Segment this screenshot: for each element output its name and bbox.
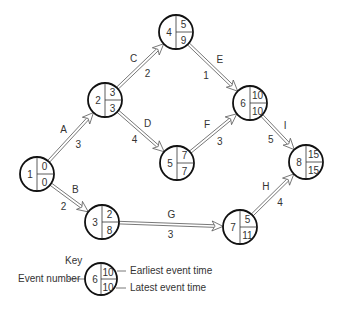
activity-name-label: A [60,124,67,135]
event-node-1: 100 [20,157,54,191]
event-node-8: 81515 [289,145,323,179]
earliest-event-time: 5 [245,214,251,225]
activity-name-label: F [204,119,210,130]
latest-event-time: 9 [181,35,187,46]
activity-name-label: G [167,209,175,220]
activity-duration-label: 5 [268,134,274,145]
event-number: 8 [296,157,302,168]
activity-duration-label: 2 [61,201,67,212]
latest-event-time: 10 [252,106,264,117]
activity-duration-label: 4 [277,197,283,208]
event-node-4: 459 [159,15,193,49]
activity-I: I5 [261,114,295,149]
latest-event-time: 11 [242,230,253,241]
latest-event-time: 3 [110,103,116,114]
activity-A: A3 [48,113,94,163]
activity-duration-label: 3 [76,139,82,150]
earliest-event-time: 10 [252,90,264,101]
event-number: 1 [27,169,33,180]
activity-H: H4 [251,174,294,216]
key-title: Key [65,255,82,266]
event-number: 7 [230,222,236,233]
event-number: 2 [95,95,101,106]
event-node-5: 577 [160,146,194,180]
activity-name-label: D [144,118,151,129]
activity-C: C2 [116,44,163,89]
activity-name-label: H [262,181,269,192]
activity-D: D4 [117,110,164,152]
event-node-7: 7511 [223,210,257,244]
activity-duration-label: 1 [203,70,209,81]
key-sample-latest: 10 [102,282,114,293]
key-earliest-label: Earliest event time [130,265,213,276]
earliest-event-time: 7 [182,150,188,161]
event-number: 6 [240,98,246,109]
event-number: 3 [92,217,98,228]
network-diagram: A3B2C2D4E1F3G3H4I5 100233328459577610107… [0,0,341,313]
activity-duration-label: 4 [132,134,138,145]
key-latest-label: Latest event time [130,282,207,293]
activity-F: F3 [189,114,237,153]
event-number: 5 [167,158,173,169]
activity-duration-label: 2 [145,68,151,79]
earliest-event-time: 0 [42,161,48,172]
activity-name-label: B [72,184,79,195]
latest-event-time: 7 [182,166,188,177]
earliest-event-time: 15 [308,149,320,160]
activity-arrows: A3B2C2D4E1F3G3H4I5 [48,43,295,241]
activity-E: E1 [187,43,237,91]
activity-name-label: C [130,53,137,64]
latest-event-time: 15 [308,165,320,176]
earliest-event-time: 3 [110,87,116,98]
activity-duration-label: 3 [168,229,174,240]
event-node-3: 328 [85,205,119,239]
event-node-6: 61010 [233,86,267,120]
activity-name-label: E [217,54,224,65]
event-node-2: 233 [88,83,122,117]
event-number: 4 [166,27,172,38]
earliest-event-time: 5 [181,19,187,30]
activity-duration-label: 3 [217,136,223,147]
key-sample-id: 6 [92,274,98,285]
activity-name-label: I [284,120,287,131]
key-event-number-label: Event number [18,273,81,284]
key-legend: Key Event number 6 10 10 Earliest event … [18,255,213,295]
activity-G: G3 [119,209,223,241]
activity-B: B2 [50,183,88,212]
latest-event-time: 8 [107,225,113,236]
latest-event-time: 0 [42,177,48,188]
earliest-event-time: 2 [107,209,113,220]
key-sample-earliest: 10 [102,267,114,278]
